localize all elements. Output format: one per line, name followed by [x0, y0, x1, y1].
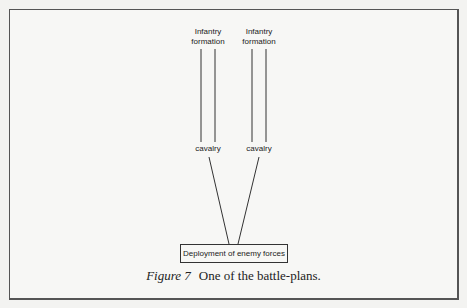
left-attack-line — [209, 157, 229, 244]
infantry-left-line1: Infantry — [188, 27, 228, 37]
figure-caption-text: One of the battle-plans. — [199, 268, 321, 283]
cavalry-left-label: cavalry — [188, 144, 228, 154]
infantry-right-line2: formation — [239, 37, 279, 47]
infantry-left-line2: formation — [188, 37, 228, 47]
infantry-right-line1: Infantry — [239, 27, 279, 37]
infantry-formation-right-label: Infantry formation — [239, 27, 279, 47]
right-attack-line — [238, 157, 259, 244]
figure-number: Figure 7 — [146, 268, 191, 283]
enemy-deployment-box: Deployment of enemy forces — [180, 244, 288, 263]
figure-caption: Figure 7One of the battle-plans. — [0, 268, 467, 284]
infantry-formation-left-label: Infantry formation — [188, 27, 228, 47]
cavalry-right-label: cavalry — [239, 144, 279, 154]
